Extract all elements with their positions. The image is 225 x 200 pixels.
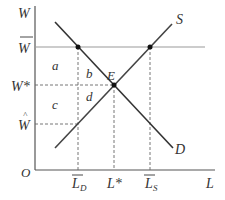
l-d-label: L <box>71 176 80 191</box>
origin-label: O <box>21 165 31 180</box>
point-wbar-ls <box>148 45 153 50</box>
demand-label: D <box>174 142 185 157</box>
w-bar-label: W <box>18 41 31 56</box>
l-d-subscript: D <box>79 183 87 193</box>
x-axis-label: L <box>205 176 214 191</box>
supply-label: S <box>176 12 183 27</box>
region-c-label: c <box>52 97 58 112</box>
point-wbar-ld <box>76 45 81 50</box>
w-star-label: W* <box>11 79 30 94</box>
region-d-label: d <box>86 89 93 104</box>
l-s-subscript: S <box>153 183 158 193</box>
equilibrium-point <box>112 83 117 88</box>
region-b-label: b <box>86 66 93 81</box>
y-axis-label: W <box>18 6 31 21</box>
l-s-label: L <box>144 176 153 191</box>
l-star-label: L* <box>106 176 122 191</box>
w-hat-label: W <box>18 118 31 133</box>
region-a-label: a <box>52 58 59 73</box>
supply-demand-diagram: W L O S D E W W* ^ W L D L* L S a b c d <box>0 0 225 200</box>
equilibrium-label: E <box>106 68 115 83</box>
